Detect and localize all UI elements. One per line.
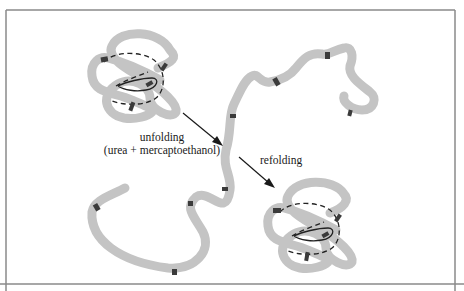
- unfolded-cysteine: [230, 114, 236, 118]
- frame: [0, 10, 464, 291]
- unfolding-condition-label: (urea + mercaptoethanol): [104, 144, 220, 157]
- unfolding-arrow: [183, 113, 223, 146]
- unfolded-cysteine: [188, 201, 193, 206]
- refolded-cysteine: [273, 208, 281, 213]
- unfolded-cysteine: [347, 110, 352, 117]
- native-protein: [92, 34, 176, 119]
- unfolded-cysteine: [222, 187, 228, 191]
- unfolded-cysteine: [172, 269, 177, 275]
- refolding-label: refolding: [260, 154, 302, 167]
- refolded-protein: [268, 182, 352, 268]
- unfolding-label: unfolding: [140, 131, 185, 144]
- unfolded-cysteine: [325, 52, 330, 59]
- refolded-chain: [268, 182, 352, 268]
- unfolding-arrow-shaft: [183, 113, 217, 141]
- protein-folding-diagram: unfolding (urea + mercaptoethanol) refol…: [0, 0, 464, 291]
